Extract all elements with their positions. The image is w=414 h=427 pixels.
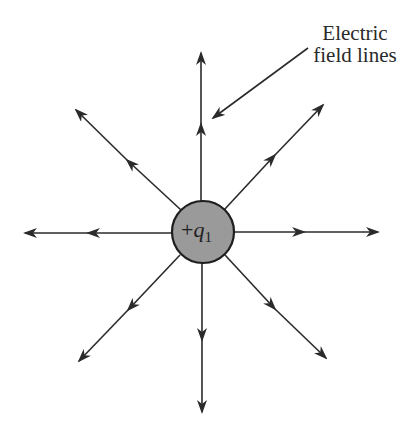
field-lines-label: Electric field lines [300, 22, 410, 66]
charge-sign: + [181, 217, 193, 242]
charge-symbol: q [193, 217, 204, 242]
field-line-upper-left [76, 110, 181, 210]
label-line-1: Electric [300, 22, 410, 44]
charge-label: +q1 [181, 217, 212, 246]
field-line-lower-right [225, 255, 326, 358]
label-line-2: field lines [300, 44, 410, 66]
label-pointer-arrow [213, 48, 308, 118]
charge-subscript: 1 [204, 229, 212, 245]
field-line-upper-right [224, 105, 323, 210]
field-line-lower-left [79, 255, 180, 361]
